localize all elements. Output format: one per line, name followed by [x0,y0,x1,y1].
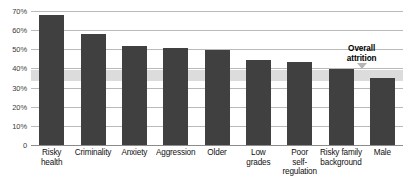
y-axis-tick-label: 60% [12,26,27,35]
x-axis-label-line: Male [358,148,407,158]
bar[interactable] [81,34,106,145]
y-axis-tick-label: 70% [12,7,27,16]
y-axis-tick-label: 20% [12,102,27,111]
bar[interactable] [205,50,230,145]
gridline-0: 0 [31,145,403,146]
x-axis-label-line: regulation [275,167,324,177]
y-axis-tick-label: 50% [12,45,27,54]
plot-area: 010%20%30%40%50%60%70% [31,4,403,145]
bar[interactable] [329,69,354,145]
bar[interactable] [39,15,64,145]
x-axis-label-line: health [27,158,76,168]
bar[interactable] [122,46,147,145]
x-axis-label-line: background [316,158,365,168]
bar[interactable] [287,62,312,145]
y-axis-tick-label: 30% [12,83,27,92]
y-axis-tick-label: 40% [12,64,27,73]
overall-attrition-annotation: Overall attrition [330,44,394,63]
bar[interactable] [246,60,271,145]
y-axis-tick-label: 10% [12,121,27,130]
overall-attrition-arrow-icon [357,63,367,69]
bar-chart: 010%20%30%40%50%60%70% RiskyhealthCrimin… [0,0,407,193]
x-axis-label: Male [358,148,407,158]
overall-attrition-line-1: Overall [330,44,394,53]
overall-attrition-line-2: attrition [330,54,394,63]
bar-series [31,4,403,145]
bar[interactable] [370,78,395,145]
bar[interactable] [163,48,188,145]
x-axis-labels: RiskyhealthCriminalityAnxietyAggressionO… [31,148,403,192]
